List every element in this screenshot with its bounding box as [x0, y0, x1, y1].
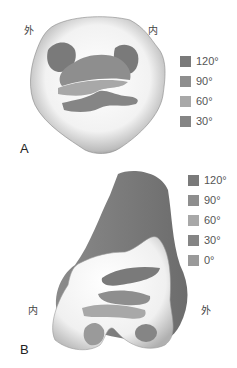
legend-swatch	[180, 96, 191, 107]
patella-contact-figure	[30, 17, 165, 154]
legend-swatch	[188, 175, 199, 186]
legend-item-90: 90°	[188, 190, 227, 210]
femoral-condyle-figure	[53, 171, 188, 350]
legend-item-120: 120°	[180, 51, 219, 71]
legend-label: 30°	[204, 234, 221, 246]
legend-label: 30°	[196, 115, 213, 127]
panel-b-letter: B	[20, 342, 29, 357]
legend-swatch	[180, 56, 191, 67]
legend-label: 60°	[204, 214, 221, 226]
legend-item-0: 0°	[188, 250, 227, 270]
legend-label: 120°	[204, 174, 227, 186]
legend-label: 60°	[196, 95, 213, 107]
panel-a-legend: 120° 90° 60° 30°	[180, 51, 219, 131]
panel-a-lateral-label: 外	[24, 22, 34, 37]
panel-b-medial-label: 内	[28, 302, 38, 317]
legend-swatch	[188, 195, 199, 206]
legend-item-120: 120°	[188, 170, 227, 190]
legend-swatch	[180, 76, 191, 87]
legend-item-30: 30°	[180, 111, 219, 131]
legend-label: 120°	[196, 55, 219, 67]
legend-swatch	[180, 116, 191, 127]
legend-item-90: 90°	[180, 71, 219, 91]
legend-label: 90°	[204, 194, 221, 206]
legend-swatch	[188, 215, 199, 226]
legend-label: 90°	[196, 75, 213, 87]
panel-b-lateral-label: 外	[201, 302, 211, 317]
panel-b-legend: 120° 90° 60° 30° 0°	[188, 170, 227, 270]
legend-label: 0°	[204, 254, 215, 266]
legend-swatch	[188, 255, 199, 266]
legend-item-30: 30°	[188, 230, 227, 250]
panel-a-letter: A	[20, 141, 29, 156]
legend-swatch	[188, 235, 199, 246]
legend-item-60: 60°	[188, 210, 227, 230]
legend-item-60: 60°	[180, 91, 219, 111]
panel-a-medial-label: 内	[148, 22, 158, 37]
